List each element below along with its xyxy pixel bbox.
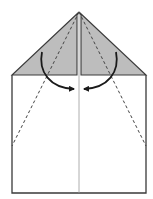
left-fold-line bbox=[12, 12, 79, 146]
right-fold-line bbox=[79, 12, 146, 146]
left-flap bbox=[12, 12, 79, 75]
right-flap bbox=[79, 12, 146, 75]
origami-fold-diagram bbox=[0, 0, 153, 199]
